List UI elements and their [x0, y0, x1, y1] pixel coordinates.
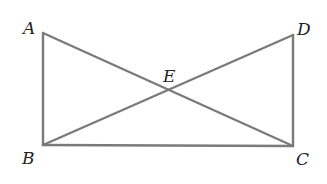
label-a: A — [21, 18, 35, 38]
label-b: B — [21, 148, 35, 168]
segment-bc — [43, 145, 293, 146]
label-c: C — [296, 149, 309, 169]
label-e: E — [162, 66, 176, 86]
geometry-diagram: A B C D E — [0, 0, 327, 184]
label-d: D — [296, 19, 311, 39]
